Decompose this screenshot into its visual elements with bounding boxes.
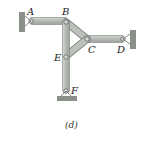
ground-support [57, 96, 77, 101]
label-d: D [117, 45, 125, 55]
pin-c [85, 37, 89, 41]
label-a: A [27, 7, 34, 17]
label-e: E [54, 53, 61, 63]
figure-caption: (d) [65, 121, 78, 130]
left-wall-support [19, 12, 25, 32]
pin-b [64, 20, 68, 24]
truss-frame-diagram: A B C D E F (d) [0, 0, 150, 141]
label-b: B [62, 7, 69, 17]
pin-e [64, 55, 68, 59]
member-cd [87, 36, 123, 43]
member-ab [31, 18, 66, 25]
label-f: F [71, 86, 78, 96]
right-wall-support [130, 30, 136, 49]
label-c: C [88, 45, 96, 55]
